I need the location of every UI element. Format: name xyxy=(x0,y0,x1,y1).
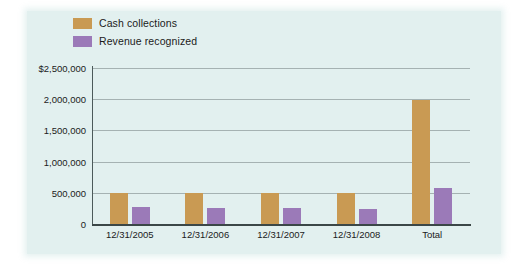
x-tick-label: 12/31/2008 xyxy=(333,229,381,240)
y-tick-label: $2,500,000 xyxy=(22,63,86,74)
x-tick-label: 12/31/2005 xyxy=(106,229,154,240)
legend-label-revenue-recognized: Revenue recognized xyxy=(99,35,197,47)
bar-cash-collections xyxy=(261,193,279,224)
legend-swatch-revenue-recognized xyxy=(73,36,92,47)
bar-revenue-recognized xyxy=(207,208,225,224)
legend-label-cash-collections: Cash collections xyxy=(99,17,177,29)
y-axis-line xyxy=(92,66,93,226)
bar-cash-collections xyxy=(412,100,430,224)
legend-item-revenue-recognized: Revenue recognized xyxy=(73,33,283,49)
bar-revenue-recognized xyxy=(434,188,452,224)
y-tick-label: 2,000,000 xyxy=(22,94,86,105)
x-tick-label: 12/31/2006 xyxy=(182,229,230,240)
x-tick-label: 12/31/2007 xyxy=(257,229,305,240)
y-tick-label: 1,500,000 xyxy=(22,125,86,136)
bar-cash-collections xyxy=(110,193,128,224)
bar-revenue-recognized xyxy=(359,209,377,224)
bar-revenue-recognized xyxy=(132,207,150,224)
plot-area xyxy=(92,68,470,224)
bar-cash-collections xyxy=(337,193,355,224)
y-tick-label: 500,000 xyxy=(22,187,86,198)
chart-legend: Cash collections Revenue recognized xyxy=(73,15,283,51)
x-axis-line xyxy=(92,224,471,226)
chart-figure: Cash collections Revenue recognized $2,5… xyxy=(0,0,527,269)
y-axis-tick-labels: $2,500,0002,000,0001,500,0001,000,000500… xyxy=(22,68,86,224)
gridline xyxy=(92,68,470,69)
x-tick-label: Total xyxy=(422,229,442,240)
bar-revenue-recognized xyxy=(283,208,301,224)
bar-cash-collections xyxy=(185,193,203,224)
legend-swatch-cash-collections xyxy=(73,18,92,29)
x-axis-tick-labels: 12/31/200512/31/200612/31/200712/31/2008… xyxy=(92,229,471,247)
legend-item-cash-collections: Cash collections xyxy=(73,15,283,31)
y-tick-label: 1,000,000 xyxy=(22,156,86,167)
y-tick-label: 0 xyxy=(22,219,86,230)
